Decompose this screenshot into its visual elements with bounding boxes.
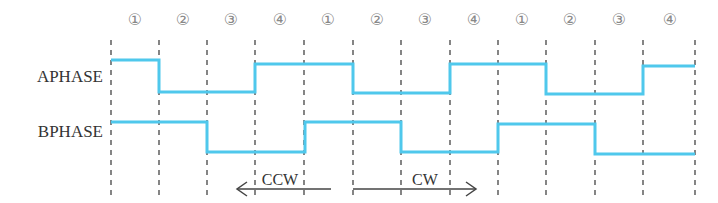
step-label: ④ [273,10,287,29]
step-boundaries [111,40,695,200]
cw-arrow: CW [353,171,476,196]
step-label: ① [128,10,142,29]
signal-label-aphase: APHASE [37,67,103,86]
step-label: ④ [467,10,481,29]
step-label: ② [176,10,190,29]
step-labels: ① ② ③ ④ ① ② ③ ④ ① ② ③ ④ [128,10,677,29]
bphase-waveform [111,122,695,154]
step-label: ③ [612,10,626,29]
ccw-arrow: CCW [237,171,331,196]
cw-label: CW [412,171,439,188]
aphase-waveform [111,60,695,94]
step-label: ③ [418,10,432,29]
signal-label-bphase: BPHASE [38,122,103,141]
step-label: ④ [663,10,677,29]
ccw-label: CCW [262,171,299,188]
step-label: ① [515,10,529,29]
step-label: ① [321,10,335,29]
step-label: ② [370,10,384,29]
timing-diagram: ① ② ③ ④ ① ② ③ ④ ① ② ③ ④ APHASE BPHASE [0,0,718,203]
step-label: ② [563,10,577,29]
step-label: ③ [224,10,238,29]
